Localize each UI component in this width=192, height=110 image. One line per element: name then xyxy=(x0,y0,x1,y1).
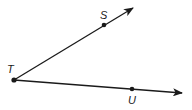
label-u: U xyxy=(128,94,136,106)
label-t: T xyxy=(7,63,15,75)
point-s xyxy=(102,23,107,28)
ray-tu xyxy=(14,80,182,93)
angle-diagram: T S U xyxy=(0,0,192,110)
point-u xyxy=(130,87,135,92)
label-s: S xyxy=(100,9,108,21)
point-t xyxy=(11,77,16,82)
ray-ts xyxy=(14,8,133,80)
